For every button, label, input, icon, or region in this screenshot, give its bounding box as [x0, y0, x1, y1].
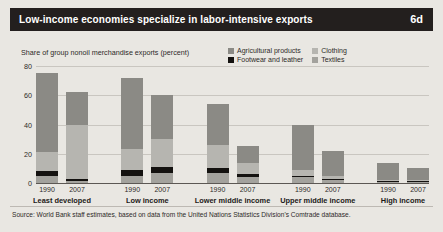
bar-segment-agricultural-products: [121, 78, 143, 150]
legend-label-footwear: Footwear and leather: [237, 56, 303, 63]
legend-swatch-footwear: [228, 57, 234, 63]
x-axis-group-label-least-developed: Least developed: [33, 196, 91, 205]
x-tick-year-high-income-2007: 2007: [401, 186, 435, 193]
x-tick-year-lower-middle-income-1990: 1990: [201, 186, 235, 193]
legend-swatch-agricultural: [228, 48, 234, 54]
bar-segment-agricultural-products: [377, 163, 399, 179]
bar-lower-middle-income-1990: [207, 104, 229, 183]
bar-segment-agricultural-products: [407, 168, 429, 180]
bar-segment-clothing: [121, 149, 143, 169]
axis-baseline: [36, 183, 429, 184]
bar-segment-agricultural-products: [322, 151, 344, 176]
bar-high-income-1990: [377, 163, 399, 183]
source-divider: [10, 206, 433, 207]
x-tick-year-least-developed-2007: 2007: [60, 186, 94, 193]
bar-high-income-2007: [407, 168, 429, 183]
x-tick-year-low-income-2007: 2007: [145, 186, 179, 193]
bar-segment-agricultural-products: [207, 104, 229, 145]
x-axis-group-label-lower-middle-income: Lower middle income: [195, 196, 271, 205]
page-title: Low-income economies specialize in labor…: [19, 14, 313, 25]
gridline-20: [36, 154, 429, 155]
x-axis-group-label-low-income: Low income: [126, 196, 169, 205]
bar-upper-middle-income-2007: [322, 151, 344, 183]
x-tick-year-least-developed-1990: 1990: [30, 186, 64, 193]
y-tick-label-60: 60: [2, 91, 32, 100]
bar-segment-clothing: [66, 125, 88, 179]
legend-swatch-clothing: [312, 48, 318, 54]
bar-segment-agricultural-products: [66, 92, 88, 124]
bar-low-income-1990: [121, 78, 143, 183]
figure-title-bar: Low-income economies specialize in labor…: [10, 8, 433, 31]
bar-segment-textiles: [36, 176, 58, 183]
x-axis-group-label-high-income: High income: [381, 196, 425, 205]
bar-segment-textiles: [207, 173, 229, 183]
legend-label-textiles: Textiles: [321, 56, 344, 63]
bar-lower-middle-income-2007: [237, 146, 259, 183]
bar-segment-clothing: [237, 163, 259, 175]
gridline-40: [36, 125, 429, 126]
bar-segment-textiles: [237, 177, 259, 183]
bar-segment-textiles: [377, 182, 399, 183]
x-tick-year-upper-middle-income-2007: 2007: [316, 186, 350, 193]
figure-number: 6d: [410, 13, 423, 25]
x-axis-group-label-upper-middle-income: Upper middle income: [280, 196, 355, 205]
bar-segment-agricultural-products: [36, 73, 58, 152]
bar-segment-textiles: [151, 173, 173, 183]
legend-item-clothing: Clothing: [312, 47, 347, 54]
x-tick-year-upper-middle-income-1990: 1990: [286, 186, 320, 193]
y-axis-tick-labels: 020406080: [0, 66, 32, 183]
gridline-80: [36, 66, 429, 67]
y-axis-caption: Share of group nonoil merchandise export…: [21, 48, 189, 57]
bar-segment-clothing: [207, 145, 229, 168]
y-tick-label-0: 0: [2, 179, 32, 188]
bar-segment-textiles: [407, 182, 429, 183]
bar-segment-agricultural-products: [292, 125, 314, 170]
bar-segment-clothing: [151, 139, 173, 167]
x-tick-year-low-income-1990: 1990: [115, 186, 149, 193]
legend-label-clothing: Clothing: [321, 47, 347, 54]
bar-segment-agricultural-products: [151, 95, 173, 139]
x-tick-year-lower-middle-income-2007: 2007: [231, 186, 265, 193]
y-tick-label-20: 20: [2, 149, 32, 158]
bar-segment-textiles: [66, 181, 88, 183]
y-tick-label-40: 40: [2, 120, 32, 129]
bar-segment-textiles: [292, 177, 314, 183]
bar-segment-clothing: [36, 152, 58, 171]
bar-segment-agricultural-products: [237, 146, 259, 162]
bar-segment-textiles: [121, 176, 143, 183]
figure-root: Low-income economies specialize in labor…: [0, 0, 443, 232]
legend-item-textiles: Textiles: [312, 56, 347, 63]
gridline-60: [36, 95, 429, 96]
bar-low-income-2007: [151, 95, 173, 183]
chart-legend: Agricultural products Clothing Footwear …: [228, 47, 347, 63]
legend-label-agricultural: Agricultural products: [237, 47, 301, 54]
bar-least-developed-2007: [66, 92, 88, 183]
x-tick-year-high-income-1990: 1990: [371, 186, 405, 193]
bar-least-developed-1990: [36, 73, 58, 183]
plot-area: [36, 66, 429, 183]
source-note: Source: World Bank staff estimates, base…: [12, 211, 351, 218]
bar-upper-middle-income-1990: [292, 125, 314, 183]
legend-item-agricultural: Agricultural products: [228, 47, 303, 54]
legend-swatch-textiles: [312, 57, 318, 63]
legend-item-footwear: Footwear and leather: [228, 56, 303, 63]
y-tick-label-80: 80: [2, 62, 32, 71]
bar-segment-textiles: [322, 180, 344, 183]
